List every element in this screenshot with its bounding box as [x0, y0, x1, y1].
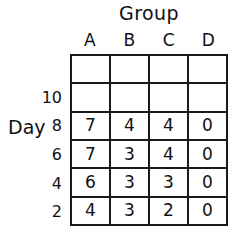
cell-r8-c: 4: [150, 113, 189, 139]
table-row: 7 4 4 0: [72, 113, 226, 141]
cell-r2-d: 0: [189, 198, 226, 224]
cell-r10-a: [72, 84, 111, 110]
row-label-10: 10: [34, 83, 66, 112]
cell-r2-c: 2: [150, 198, 189, 224]
table-row: 4 3 2 0: [72, 198, 226, 224]
column-header-d: D: [189, 28, 229, 52]
cell-r10-c: [150, 84, 189, 110]
row-label-0: [34, 54, 66, 83]
table-row: [72, 56, 226, 84]
cell-r4-d: 0: [189, 169, 226, 195]
cell-r8-b: 4: [111, 113, 150, 139]
row-label-8: 8: [34, 111, 66, 140]
row-label-6: 6: [34, 140, 66, 169]
cell-r6-a: 7: [72, 141, 111, 167]
cell-r8-d: 0: [189, 113, 226, 139]
data-grid: 7 4 4 0 7 3 4 0 6 3 3 0 4 3 2 0: [70, 54, 228, 226]
table-row: [72, 84, 226, 112]
hand-drawn-table-figure: Group A B C D Day 10 8 6 4 2 7 4 4: [0, 0, 246, 233]
cell-r4-a: 6: [72, 169, 111, 195]
row-label-2: 2: [34, 197, 66, 226]
cell-r4-c: 3: [150, 169, 189, 195]
row-label-4: 4: [34, 169, 66, 198]
column-header-a: A: [70, 28, 110, 52]
cell-r0-c: [150, 56, 189, 82]
cell-r2-b: 3: [111, 198, 150, 224]
cell-r10-b: [111, 84, 150, 110]
cell-r0-a: [72, 56, 111, 82]
cell-r0-d: [189, 56, 226, 82]
cell-r0-b: [111, 56, 150, 82]
column-header-row: A B C D: [70, 28, 228, 52]
cell-r2-a: 4: [72, 198, 111, 224]
cell-r6-b: 3: [111, 141, 150, 167]
cell-r8-a: 7: [72, 113, 111, 139]
cell-r6-c: 4: [150, 141, 189, 167]
column-axis-title: Group: [70, 2, 228, 24]
column-header-b: B: [110, 28, 150, 52]
table-row: 7 3 4 0: [72, 141, 226, 169]
row-label-column: 10 8 6 4 2: [34, 54, 66, 226]
cell-r4-b: 3: [111, 169, 150, 195]
cell-r10-d: [189, 84, 226, 110]
column-header-c: C: [149, 28, 189, 52]
table-row: 6 3 3 0: [72, 169, 226, 197]
cell-r6-d: 0: [189, 141, 226, 167]
